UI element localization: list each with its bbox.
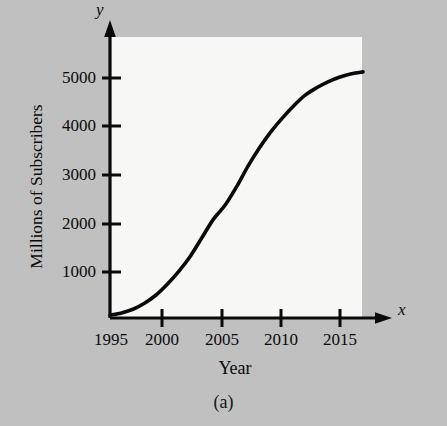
x-tick-label: 2015 [309,330,371,350]
data-series-line [110,72,363,315]
x-axis-title: Year [160,358,310,379]
figure-caption: (a) [0,392,447,413]
y-axis-variable-letter: y [96,0,104,20]
x-tick-label: 2000 [131,330,193,350]
y-axis-title: Millions of Subscribers [26,77,47,297]
x-axis-variable-letter: x [398,300,406,320]
figure-panel-a: 5000 4000 3000 2000 1000 1995 2000 2005 … [0,0,447,426]
x-tick-label: 2005 [191,330,253,350]
x-axis [110,312,392,324]
x-tick-label: 2010 [250,330,312,350]
